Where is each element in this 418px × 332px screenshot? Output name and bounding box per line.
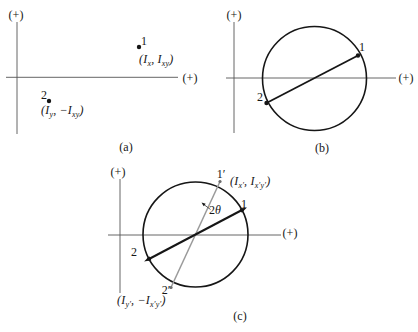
figure-drawing [0, 0, 418, 332]
c-diameter-line [149, 210, 242, 259]
c-point2-dot [147, 257, 151, 261]
c-point2prime-dot [169, 286, 172, 289]
c-point1prime-dot [218, 180, 221, 183]
b-point1-dot [356, 53, 360, 57]
mohr-circle-figure: (+) (+) 1 (Ix, Ixy) 2 (Iy, −Ixy) (a) (+)… [0, 0, 418, 332]
b-point2-dot [264, 101, 268, 105]
b-diameter-line [267, 56, 359, 104]
a-point2-dot [47, 99, 51, 103]
a-point1-dot [137, 45, 141, 49]
c-point1-dot [240, 208, 244, 212]
